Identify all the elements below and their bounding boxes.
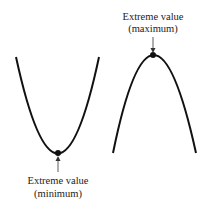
min-label-line2: (minimum) bbox=[34, 188, 82, 200]
min-label-line1: Extreme value bbox=[28, 175, 89, 186]
max-label-line2: (maximum) bbox=[128, 23, 178, 35]
max-label-line1: Extreme value bbox=[123, 11, 184, 22]
max-arrow-head-icon bbox=[151, 48, 156, 53]
max-parabola-curve bbox=[113, 55, 196, 153]
extreme-values-diagram: Extreme value (minimum) Extreme value (m… bbox=[0, 0, 205, 208]
minimum-point bbox=[55, 150, 61, 156]
min-parabola-curve bbox=[16, 57, 99, 154]
min-arrow-head-icon bbox=[56, 156, 61, 161]
